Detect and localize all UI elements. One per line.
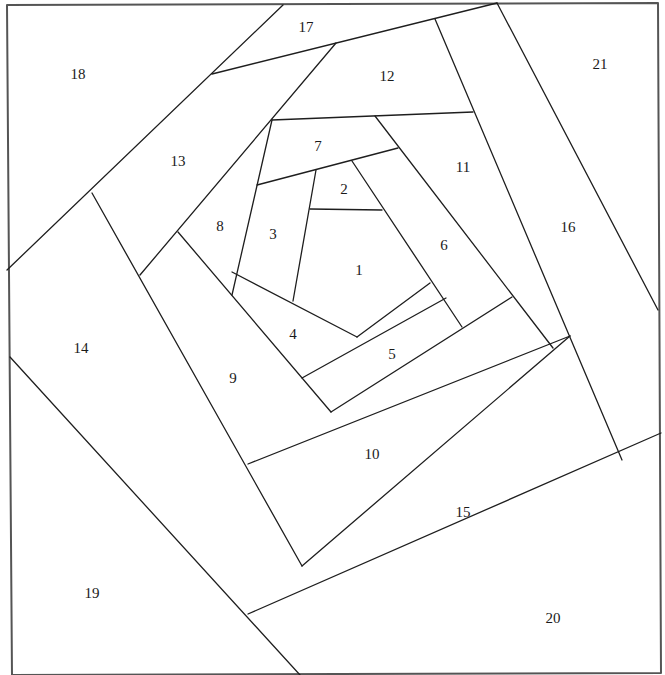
piece-label-2: 2 [340, 181, 348, 198]
seam-line [10, 357, 300, 675]
seam-line [497, 3, 658, 310]
piece-label-21: 21 [593, 56, 608, 73]
seam-lines [7, 3, 661, 675]
piece-label-19: 19 [85, 585, 100, 602]
seam-line [375, 116, 553, 348]
piece-label-6: 6 [440, 237, 448, 254]
piece-label-5: 5 [388, 346, 396, 363]
piece-label-12: 12 [380, 68, 395, 85]
pattern-diagram [0, 0, 665, 675]
seam-line [92, 193, 302, 566]
seam-line [293, 170, 316, 301]
seam-line [310, 209, 382, 210]
piece-label-4: 4 [289, 326, 297, 343]
seam-line [248, 433, 661, 614]
seam-line [140, 43, 336, 275]
piece-label-18: 18 [71, 66, 86, 83]
piece-label-14: 14 [74, 340, 89, 357]
seam-line [357, 283, 430, 337]
seam-line [7, 5, 283, 270]
seam-line [257, 148, 398, 185]
piece-label-1: 1 [355, 262, 363, 279]
piece-label-17: 17 [299, 19, 314, 36]
seam-line [435, 19, 622, 460]
piece-label-9: 9 [229, 370, 237, 387]
seam-line [178, 232, 331, 412]
piece-label-11: 11 [456, 159, 470, 176]
seam-line [272, 112, 473, 120]
seam-line [232, 120, 272, 295]
seam-line [302, 298, 446, 378]
piece-label-10: 10 [365, 446, 380, 463]
piece-label-15: 15 [456, 504, 471, 521]
piece-label-7: 7 [314, 138, 322, 155]
piece-label-3: 3 [269, 226, 277, 243]
piece-label-16: 16 [561, 219, 576, 236]
piece-label-20: 20 [546, 610, 561, 627]
piece-label-8: 8 [216, 218, 224, 235]
seam-line [248, 336, 570, 464]
piece-label-13: 13 [171, 153, 186, 170]
